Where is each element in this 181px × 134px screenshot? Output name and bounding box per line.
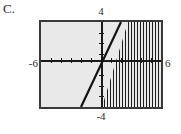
axis-label-top: 4 bbox=[84, 5, 118, 17]
plot-area bbox=[41, 22, 161, 107]
plot-frame bbox=[39, 20, 163, 109]
axis-label-left: -6 bbox=[14, 57, 38, 69]
axis-label-right: 6 bbox=[165, 57, 181, 69]
boundary-line bbox=[41, 22, 161, 107]
inequality-graph-figure: 4 -4 -6 6 bbox=[0, 0, 181, 134]
axis-label-bottom: -4 bbox=[84, 110, 118, 122]
